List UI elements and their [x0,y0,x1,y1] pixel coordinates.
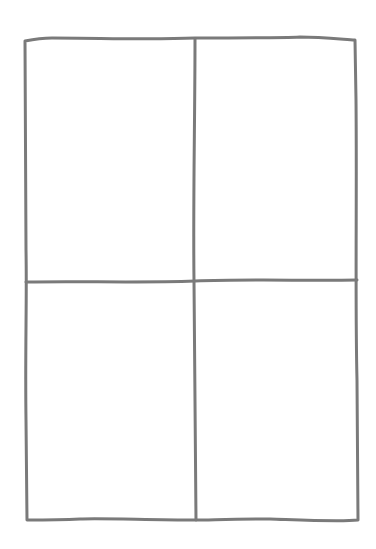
horizontal-divider [26,280,357,282]
grid-diagram [0,0,376,549]
